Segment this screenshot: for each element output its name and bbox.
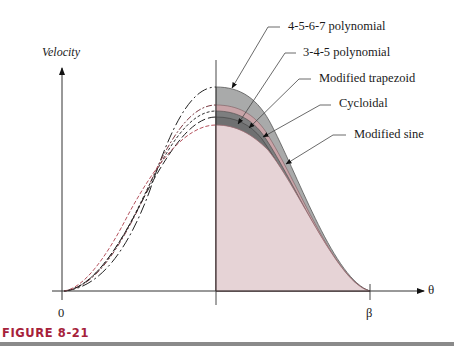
legend-label-4567-polynomial: 4-5-6-7 polynomial	[288, 19, 386, 34]
x-tick-zero: 0	[58, 306, 64, 321]
leader-modified-sine	[286, 135, 346, 164]
filled-bands	[216, 87, 370, 291]
curve-cycloidal	[64, 117, 216, 291]
curve-345-polynomial	[64, 105, 216, 291]
x-tick-beta: β	[366, 306, 372, 321]
rise-curves	[64, 87, 216, 291]
curve-modified-sine	[64, 125, 216, 291]
leader-4567-polynomial	[232, 27, 280, 88]
legend-label-modified-trapezoid: Modified trapezoid	[319, 71, 415, 86]
y-axis-label: Velocity	[42, 45, 80, 60]
curve-4567-polynomial	[64, 87, 216, 291]
legend-label-modified-sine: Modified sine	[354, 127, 424, 142]
legend-label-345-polynomial: 3-4-5 polynomial	[303, 45, 390, 60]
x-axis-label: θ	[428, 282, 434, 298]
curve-modified-trapezoid	[64, 111, 216, 291]
band-modified-sine	[216, 125, 370, 291]
caption-rule	[0, 342, 454, 346]
legend-label-cycloidal: Cycloidal	[339, 96, 388, 111]
figure-caption: FIGURE 8-21	[2, 326, 89, 340]
